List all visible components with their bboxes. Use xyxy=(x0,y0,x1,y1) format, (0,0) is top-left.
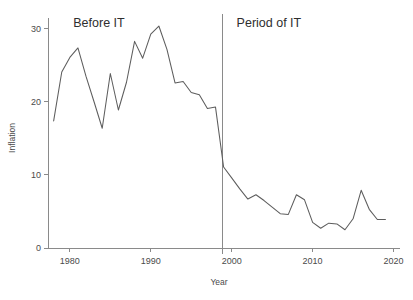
y-tick-labels: 0102030 xyxy=(31,24,41,253)
x-axis-title: Year xyxy=(210,277,227,287)
data-line-inflation xyxy=(54,26,386,230)
y-tick-label: 0 xyxy=(36,243,41,253)
y-tick-label: 20 xyxy=(31,97,41,107)
annotation-period-of-it: Period of IT xyxy=(237,16,302,30)
x-axis xyxy=(48,248,400,252)
y-tick-group xyxy=(44,29,48,248)
x-tick-label: 2020 xyxy=(384,256,404,266)
inflation-chart: 0102030 19801990200020102020 Before ITPe… xyxy=(0,0,413,300)
y-tick-label: 10 xyxy=(31,170,41,180)
annotation-before-it: Before IT xyxy=(73,16,125,30)
x-tick-label: 2010 xyxy=(303,256,323,266)
x-tick-group xyxy=(70,248,394,252)
x-tick-label: 2000 xyxy=(222,256,242,266)
y-tick-label: 30 xyxy=(31,24,41,34)
x-tick-label: 1990 xyxy=(141,256,161,266)
chart-canvas: 0102030 19801990200020102020 Before ITPe… xyxy=(0,0,413,300)
data-series-group xyxy=(54,26,386,230)
annotation-group: Before ITPeriod of IT xyxy=(73,16,301,30)
y-axis xyxy=(44,18,48,248)
x-tick-labels: 19801990200020102020 xyxy=(60,256,404,266)
x-tick-label: 1980 xyxy=(60,256,80,266)
y-axis-title: Inflation xyxy=(7,123,17,153)
